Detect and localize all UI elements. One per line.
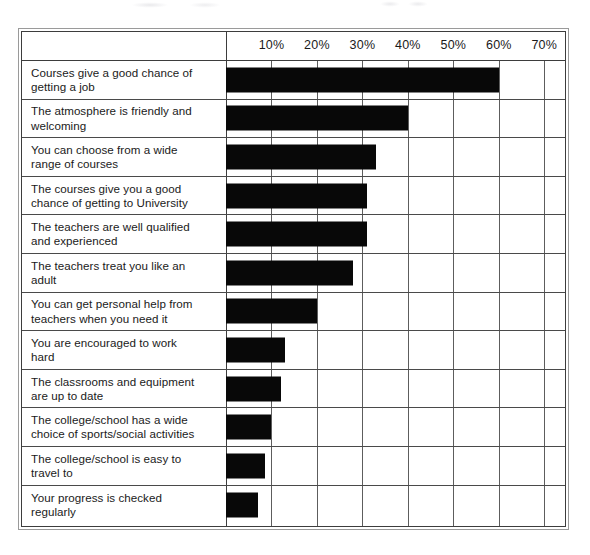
axis-tick-label: 50% — [441, 38, 467, 52]
bar-track — [226, 293, 565, 331]
row-label-line: The teachers treat you like an — [31, 259, 229, 273]
axis-tick-label: 70% — [531, 38, 557, 52]
bar-track — [226, 138, 565, 176]
row-label-line: The college/school is easy to — [31, 452, 229, 466]
row-label-line: hard — [31, 350, 229, 364]
row-label-line: range of courses — [31, 157, 229, 171]
row-label: The college/school is easy totravel to — [31, 452, 229, 480]
row-label-line: The college/school has a wide — [31, 413, 229, 427]
row-label-line: The courses give you a good — [31, 181, 229, 195]
chart-row: The college/school has a widechoice of s… — [22, 408, 565, 447]
row-label-line: Your progress is checked — [31, 491, 229, 505]
bar-track — [226, 447, 565, 485]
row-label-line: The teachers are well qualified — [31, 220, 229, 234]
axis-header — [22, 32, 565, 61]
row-label: The teachers treat you like anadult — [31, 259, 229, 287]
bar-track — [226, 177, 565, 215]
chart-frame: 10%20%30%40%50%60%70% Courses give a goo… — [18, 28, 569, 530]
row-label-line: regularly — [31, 505, 229, 519]
row-label-line: adult — [31, 273, 229, 287]
bar — [226, 492, 258, 517]
row-label-line: You are encouraged to work — [31, 336, 229, 350]
row-label: The teachers are well qualifiedand exper… — [31, 220, 229, 248]
bar — [226, 337, 285, 362]
chart-row: You can choose from a widerange of cours… — [22, 138, 565, 177]
bar — [226, 222, 367, 247]
chart-row: The classrooms and equipmentare up to da… — [22, 370, 565, 409]
bar-track — [226, 331, 565, 369]
chart-row: The teachers treat you like anadult — [22, 254, 565, 293]
row-label: Courses give a good chance ofgetting a j… — [31, 66, 229, 94]
bar-track — [226, 215, 565, 253]
axis-tick-label: 60% — [486, 38, 512, 52]
bar-track — [226, 100, 565, 138]
row-label-line: welcoming — [31, 118, 229, 132]
row-label-line: The classrooms and equipment — [31, 374, 229, 388]
row-label: The atmosphere is friendly andwelcoming — [31, 104, 229, 132]
row-label: The college/school has a widechoice of s… — [31, 413, 229, 441]
row-label: The courses give you a goodchance of get… — [31, 181, 229, 209]
row-label-line: travel to — [31, 466, 229, 480]
bar — [226, 453, 265, 478]
chart-row: The college/school is easy totravel to — [22, 447, 565, 486]
chart-rows: Courses give a good chance ofgetting a j… — [22, 61, 565, 526]
row-label-line: getting a job — [31, 80, 229, 94]
chart-row: You are encouraged to workhard — [22, 331, 565, 370]
row-label-line: and experienced — [31, 234, 229, 248]
scan-artifact — [0, 0, 590, 14]
bar — [226, 376, 281, 401]
chart-table: 10%20%30%40%50%60%70% Courses give a goo… — [21, 31, 566, 527]
bar — [226, 299, 317, 324]
bar-track — [226, 370, 565, 408]
row-label: You are encouraged to workhard — [31, 336, 229, 364]
row-label-line: Courses give a good chance of — [31, 66, 229, 80]
row-label-line: You can choose from a wide — [31, 143, 229, 157]
row-label-line: are up to date — [31, 389, 229, 403]
row-label: Your progress is checkedregularly — [31, 491, 229, 519]
row-label-line: The atmosphere is friendly and — [31, 104, 229, 118]
bar-track — [226, 486, 565, 525]
row-label-line: choice of sports/social activities — [31, 427, 229, 441]
bar — [226, 67, 499, 92]
row-label-line: chance of getting to University — [31, 196, 229, 210]
axis-tick-label: 20% — [304, 38, 330, 52]
chart-row: The atmosphere is friendly andwelcoming — [22, 100, 565, 139]
row-label: You can choose from a widerange of cours… — [31, 143, 229, 171]
axis-tick-label: 30% — [350, 38, 376, 52]
bar-track — [226, 408, 565, 446]
row-label-line: You can get personal help from — [31, 297, 229, 311]
bar — [226, 415, 271, 440]
chart-row: The teachers are well qualifiedand exper… — [22, 215, 565, 254]
bar — [226, 106, 408, 131]
bar — [226, 144, 376, 169]
bar-track — [226, 254, 565, 292]
bar — [226, 260, 353, 285]
chart-row: The courses give you a goodchance of get… — [22, 177, 565, 216]
bar — [226, 183, 367, 208]
chart-row: Your progress is checkedregularly — [22, 486, 565, 525]
chart-row: You can get personal help fromteachers w… — [22, 293, 565, 332]
row-label: The classrooms and equipmentare up to da… — [31, 374, 229, 402]
row-label-line: teachers when you need it — [31, 311, 229, 325]
axis-tick-label: 40% — [395, 38, 421, 52]
row-label: You can get personal help fromteachers w… — [31, 297, 229, 325]
axis-tick-label: 10% — [259, 38, 285, 52]
chart-row: Courses give a good chance ofgetting a j… — [22, 61, 565, 100]
bar-track — [226, 61, 565, 99]
